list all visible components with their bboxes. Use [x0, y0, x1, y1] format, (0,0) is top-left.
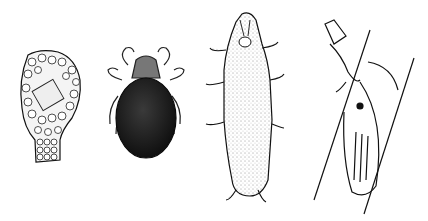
testate-amoeba-illustration — [21, 51, 80, 162]
figure-canvas — [0, 0, 428, 221]
tardigrade-illustration — [206, 13, 284, 202]
mite-illustration — [108, 48, 184, 159]
rotifer-illustration — [314, 20, 414, 214]
